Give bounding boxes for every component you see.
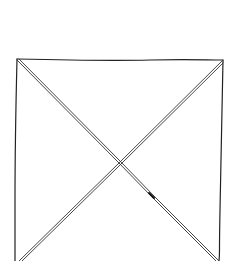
- box-right-edge: [219, 60, 223, 261]
- box-left-edge: [15, 59, 17, 261]
- diagonal-tl-br-a: [17, 60, 216, 261]
- diagonal-tl-br-b: [19, 59, 219, 261]
- image-placeholder-sketch: Hand-drawn square with an X through it: [0, 0, 241, 261]
- box-top-edge: [17, 59, 223, 60]
- diagonal-tr-bl-a: [19, 61, 222, 261]
- placeholder-x-box-icon: [0, 0, 241, 261]
